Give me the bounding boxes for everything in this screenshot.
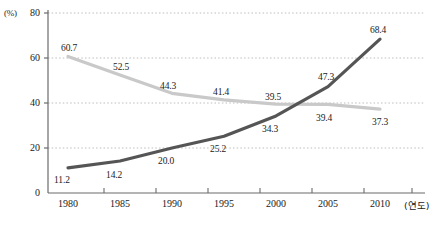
y-tick-label-60: 60: [16, 52, 40, 63]
x-tick-label-1990: 1990: [152, 198, 192, 209]
line-chart: (%) 80 60 40 20 0 1980 1985 1990 1995 20…: [0, 0, 440, 229]
point-label-rising-1985: 14.2: [106, 170, 122, 180]
y-axis-unit-label: (%): [4, 8, 17, 18]
x-tick-label-2010: 2010: [360, 198, 400, 209]
point-label-declining-2005: 39.4: [316, 113, 332, 123]
point-label-rising-2000: 34.3: [262, 124, 278, 134]
x-tick-label-2000: 2000: [256, 198, 296, 209]
point-label-declining-2010: 37.3: [372, 117, 388, 127]
x-tick-label-1995: 1995: [204, 198, 244, 209]
gridlines: [48, 13, 425, 148]
x-axis: [48, 188, 425, 193]
point-label-rising-1995: 25.2: [210, 144, 226, 154]
point-label-declining-1980: 60.7: [61, 43, 77, 53]
x-tick-label-1980: 1980: [48, 198, 88, 209]
point-label-rising-2010: 68.4: [370, 25, 386, 35]
y-tick-label-40: 40: [16, 97, 40, 108]
y-tick-label-20: 20: [16, 142, 40, 153]
y-tick-label-80: 80: [16, 7, 40, 18]
y-axis: [44, 10, 48, 193]
x-tick-label-2005: 2005: [308, 198, 348, 209]
point-label-rising-1980: 11.2: [54, 175, 70, 185]
point-label-declining-1995: 41.4: [213, 87, 229, 97]
point-label-rising-2005: 47.3: [318, 72, 334, 82]
point-label-rising-1990: 20.0: [158, 156, 174, 166]
x-tick-label-1985: 1985: [100, 198, 140, 209]
point-label-declining-1990: 44.3: [160, 81, 176, 91]
point-label-declining-1985: 52.5: [113, 62, 129, 72]
point-label-declining-2000: 39.5: [265, 92, 281, 102]
y-tick-label-0: 0: [16, 187, 40, 198]
x-axis-unit-label: (연도): [404, 198, 429, 212]
